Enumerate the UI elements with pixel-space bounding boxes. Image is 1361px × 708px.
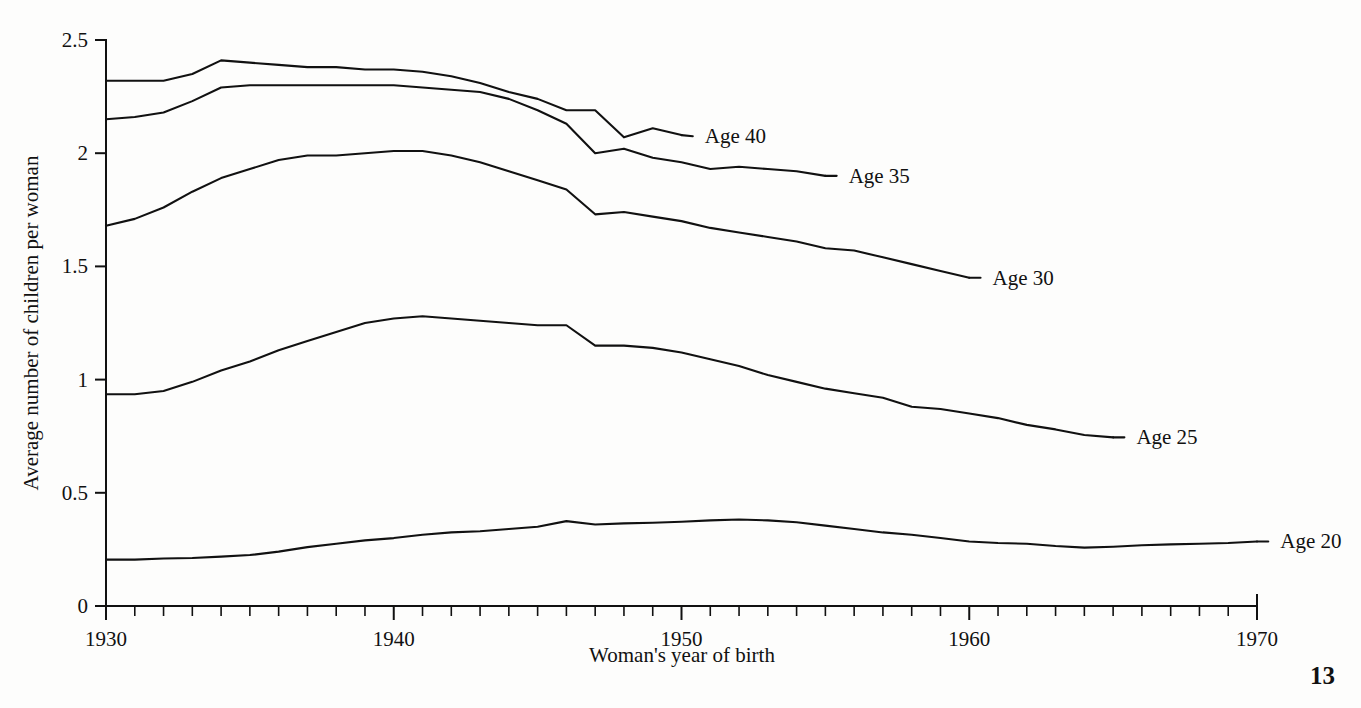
series-label-age-20: Age 20 (1280, 529, 1341, 553)
y-tick-label: 1.5 (62, 254, 88, 278)
x-axis-ticks (106, 594, 1257, 620)
y-axis-tick-labels: 00.511.522.5 (62, 28, 88, 618)
series-label-age-30: Age 30 (993, 266, 1054, 290)
y-tick-label: 2 (78, 141, 89, 165)
y-tick-label: 2.5 (62, 28, 88, 52)
series-label-age-25: Age 25 (1136, 425, 1197, 449)
series-leader-age-40 (682, 135, 693, 136)
chart-page: 00.511.522.5 19301940195019601970 Age 40… (0, 0, 1361, 708)
series-lines (106, 60, 1268, 559)
x-tick-label: 1940 (373, 627, 415, 651)
x-axis-title: Woman's year of birth (589, 643, 775, 667)
series-label-age-35: Age 35 (849, 164, 910, 188)
series-line-age-40 (106, 60, 682, 137)
x-tick-label: 1970 (1236, 627, 1278, 651)
y-axis-title: Average number of children per woman (19, 155, 43, 490)
series-labels: Age 40Age 35Age 30Age 25Age 20 (705, 124, 1342, 553)
y-tick-label: 0 (78, 594, 89, 618)
series-line-age-20 (106, 520, 1257, 560)
x-tick-label: 1930 (85, 627, 127, 651)
y-tick-label: 1 (78, 368, 89, 392)
series-line-age-30 (106, 151, 969, 278)
series-line-age-25 (106, 316, 1113, 437)
y-tick-label: 0.5 (62, 481, 88, 505)
y-axis-ticks (95, 40, 106, 606)
axes-group (95, 40, 1257, 620)
line-chart: 00.511.522.5 19301940195019601970 Age 40… (0, 0, 1361, 708)
page-number: 13 (1310, 662, 1335, 690)
series-label-age-40: Age 40 (705, 124, 766, 148)
x-tick-label: 1960 (948, 627, 990, 651)
